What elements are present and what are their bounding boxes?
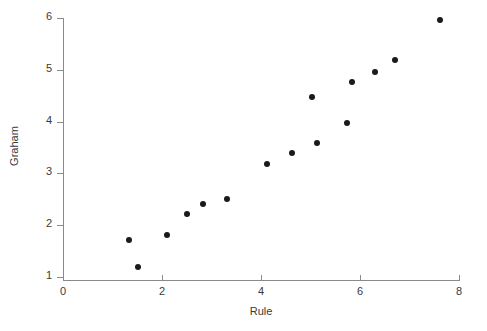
data-point bbox=[289, 150, 295, 156]
x-axis-tick-label: 0 bbox=[48, 285, 78, 297]
x-axis-tick bbox=[162, 275, 163, 281]
data-point bbox=[372, 69, 378, 75]
y-axis-tick bbox=[57, 225, 63, 226]
x-axis-label: Rule bbox=[63, 305, 459, 317]
x-axis-tick bbox=[360, 275, 361, 281]
y-axis-tick-label: 3 bbox=[26, 165, 52, 177]
data-point bbox=[224, 196, 230, 202]
data-point bbox=[184, 211, 190, 217]
data-point bbox=[164, 232, 170, 238]
y-axis-tick bbox=[57, 173, 63, 174]
data-point bbox=[349, 79, 355, 85]
y-axis-line bbox=[63, 18, 64, 280]
scatter-plot-figure: Rule Graham 02468123456 bbox=[0, 0, 487, 331]
y-axis-tick-label: 1 bbox=[26, 269, 52, 281]
y-axis-tick bbox=[57, 122, 63, 123]
data-point bbox=[437, 17, 443, 23]
x-axis-tick bbox=[63, 275, 64, 281]
y-axis-label: Graham bbox=[8, 106, 20, 186]
data-point bbox=[264, 161, 270, 167]
data-point bbox=[135, 264, 141, 270]
y-axis-tick bbox=[57, 277, 63, 278]
data-point bbox=[309, 94, 315, 100]
x-axis-tick bbox=[261, 275, 262, 281]
data-point bbox=[344, 120, 350, 126]
x-axis-tick bbox=[459, 275, 460, 281]
y-axis-tick bbox=[57, 70, 63, 71]
x-axis-tick-label: 2 bbox=[147, 285, 177, 297]
x-axis-tick-label: 8 bbox=[444, 285, 474, 297]
x-axis-tick-label: 4 bbox=[246, 285, 276, 297]
data-point bbox=[126, 237, 132, 243]
y-axis-tick-label: 6 bbox=[26, 10, 52, 22]
plot-area bbox=[63, 18, 459, 277]
data-point bbox=[314, 140, 320, 146]
y-axis-tick-label: 2 bbox=[26, 217, 52, 229]
y-axis-tick-label: 5 bbox=[26, 62, 52, 74]
data-point bbox=[200, 201, 206, 207]
y-axis-tick bbox=[57, 18, 63, 19]
data-point bbox=[392, 57, 398, 63]
x-axis-tick-label: 6 bbox=[345, 285, 375, 297]
y-axis-tick-label: 4 bbox=[26, 114, 52, 126]
